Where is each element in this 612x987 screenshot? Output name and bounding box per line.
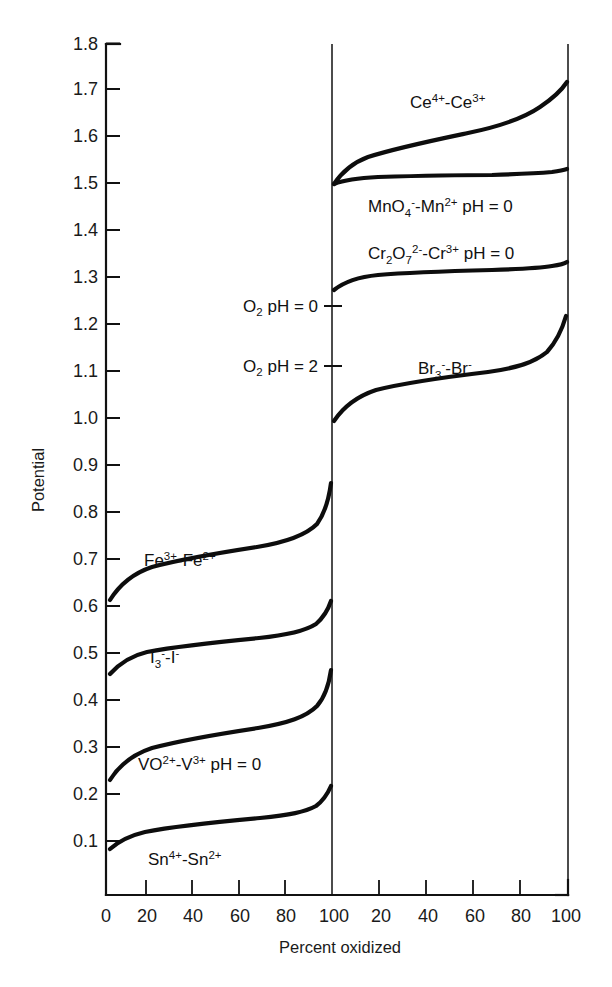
y-tick-label-1.5: 1.5 <box>73 173 98 193</box>
x-axis-title: Percent oxidized <box>279 938 401 956</box>
ce-sup-1: 4+ <box>432 92 445 104</box>
x-tick-label-right-60: 60 <box>465 906 485 926</box>
ce-base-1: Ce <box>410 93 432 112</box>
curve-cr2o7-cr3 <box>334 262 567 290</box>
sn-base-2: Sn <box>188 850 209 869</box>
y-tick-label-0.2: 0.2 <box>73 784 98 804</box>
cr2o7-sup-2: 3+ <box>446 243 459 255</box>
sn-sup-1: 4+ <box>169 849 182 861</box>
x-tick-label-left-100: 100 <box>319 906 349 926</box>
y-tick-label-0.3: 0.3 <box>73 737 98 757</box>
o2-ph0-label: O2 pH = 0 <box>243 297 318 318</box>
x-tick-label-left-80: 80 <box>276 906 296 926</box>
x-tick-label-right-40: 40 <box>418 906 438 926</box>
cr2o7-sup-1: 2- <box>412 243 422 255</box>
x-tick-label-left-60: 60 <box>230 906 250 926</box>
br3-sup-2: - <box>468 358 472 370</box>
fe-sup-2: 2+ <box>202 550 215 562</box>
mno4-tail: pH = 0 <box>458 197 513 216</box>
x-tick-label-left-0: 0 <box>101 906 111 926</box>
br3-base-2: Br <box>451 359 468 378</box>
curve-label-ce: Ce4+-Ce3+ <box>410 92 486 112</box>
o2-ph0-base: O <box>243 297 256 316</box>
br3-base-1: Br <box>418 359 435 378</box>
o2-ph2-label: O2 pH = 2 <box>243 357 318 378</box>
y-tick-label-0.6: 0.6 <box>73 596 98 616</box>
x-tick-label-right-100: 100 <box>551 906 581 926</box>
vo-sup-1: 2+ <box>163 754 176 766</box>
x-axis-tick-labels: 0 20 40 60 80 100 20 40 60 80 100 <box>101 906 581 926</box>
y-tick-label-1.8: 1.8 <box>73 34 98 54</box>
curve-i3-i <box>110 601 331 674</box>
y-tick-label-0.7: 0.7 <box>73 549 98 569</box>
curve-label-cr2o7: Cr2O72--Cr3+ pH = 0 <box>368 243 514 266</box>
x-axis-ticks-right-panel <box>379 880 520 895</box>
curve-label-fe: Fe3+-Fe2+ <box>144 550 216 570</box>
y-tick-label-1.4: 1.4 <box>73 220 98 240</box>
curve-sn4-sn2 <box>110 786 331 849</box>
y-axis-tick-labels: 1.8 1.7 1.6 1.5 1.4 1.3 1.2 1.1 1.0 0.9 … <box>73 34 98 851</box>
left-panel-curves <box>110 483 331 849</box>
y-tick-label-1.7: 1.7 <box>73 79 98 99</box>
curve-label-br3: Br3--Br- <box>418 358 472 381</box>
curve-fe3-fe2 <box>110 483 331 600</box>
x-axis-ticks-left-panel <box>146 880 285 895</box>
i3-sub-1: 3 <box>155 658 161 670</box>
vo-tail: pH = 0 <box>206 755 261 774</box>
curve-label-i3: I3--I- <box>150 647 179 670</box>
x-tick-label-left-20: 20 <box>137 906 157 926</box>
y-tick-label-0.4: 0.4 <box>73 690 98 710</box>
curve-label-vo: VO2+-V3+ pH = 0 <box>138 754 261 774</box>
x-tick-label-right-80: 80 <box>511 906 531 926</box>
x-tick-label-left-40: 40 <box>183 906 203 926</box>
y-axis-title: Potential <box>29 448 47 512</box>
y-axis-ticks <box>106 44 120 842</box>
y-tick-label-1.1: 1.1 <box>73 361 98 381</box>
o2-ph2-tail: pH = 2 <box>263 357 318 376</box>
y-tick-label-1.3: 1.3 <box>73 267 98 287</box>
cr2o7-base-2: Cr <box>428 244 446 263</box>
curve-label-sn: Sn4+-Sn2+ <box>148 849 222 869</box>
curve-label-mno4: MnO4--Mn2+ pH = 0 <box>368 196 513 219</box>
ce-sup-2: 3+ <box>472 92 485 104</box>
fe-base-2: Fe <box>183 551 203 570</box>
cr2o7-base-1: Cr <box>368 244 386 263</box>
mno4-base-2: Mn <box>421 197 445 216</box>
mno4-base-1: MnO <box>368 197 405 216</box>
y-tick-label-0.9: 0.9 <box>73 455 98 475</box>
curve-mno4-mn2 <box>334 169 567 184</box>
y-tick-label-1.6: 1.6 <box>73 126 98 146</box>
vo-sup-2: 3+ <box>193 754 206 766</box>
fe-sup-1: 3+ <box>164 550 177 562</box>
cr2o7-tail: pH = 0 <box>459 244 514 263</box>
o2-ph2-base: O <box>243 357 256 376</box>
o2-ph0-tail: pH = 0 <box>263 297 318 316</box>
sn-sup-2: 2+ <box>208 849 221 861</box>
sn-base-1: Sn <box>148 850 169 869</box>
mno4-sup-2: 2+ <box>444 196 457 208</box>
vo-base-2: V <box>181 755 193 774</box>
y-tick-label-1.2: 1.2 <box>73 314 98 334</box>
y-tick-label-0.5: 0.5 <box>73 643 98 663</box>
cr2o7-base-1b: O <box>392 244 405 263</box>
fe-base-1: Fe <box>144 551 164 570</box>
vo-base-1: VO <box>138 755 163 774</box>
mno4-sub-1: 4 <box>405 207 412 219</box>
i3-sup-2: - <box>175 647 179 659</box>
redox-titration-figure: 1.8 1.7 1.6 1.5 1.4 1.3 1.2 1.1 1.0 0.9 … <box>0 0 612 987</box>
br3-sub-1: 3 <box>435 369 441 381</box>
potential-vs-percent-oxidized-chart: 1.8 1.7 1.6 1.5 1.4 1.3 1.2 1.1 1.0 0.9 … <box>0 0 612 987</box>
y-tick-label-0.8: 0.8 <box>73 502 98 522</box>
cr2o7-sub-1b: 7 <box>406 254 412 266</box>
y-tick-label-1.0: 1.0 <box>73 408 98 428</box>
y-tick-label-0.1: 0.1 <box>73 831 98 851</box>
ce-base-2: Ce <box>451 93 473 112</box>
o2-marker-ticks <box>324 306 342 366</box>
x-tick-label-right-20: 20 <box>371 906 391 926</box>
